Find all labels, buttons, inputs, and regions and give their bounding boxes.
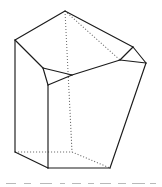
artifact-speck	[100, 183, 111, 184]
artifact-speck	[132, 183, 145, 184]
artifact-speck	[72, 183, 81, 184]
polyhedron-diagram: Polyhedron line drawing Wireframe perspe…	[0, 0, 162, 187]
artifact-speck	[118, 183, 126, 184]
face-front-right	[48, 60, 146, 168]
artifact-speck	[24, 183, 31, 184]
faces-layer	[15, 11, 146, 168]
artifact-speck	[40, 183, 52, 184]
artifact-speck	[60, 183, 65, 184]
artifact-speck	[6, 183, 16, 184]
figure-canvas: Polyhedron line drawing Wireframe perspe…	[0, 0, 162, 187]
artifact-speck	[150, 183, 156, 184]
bottom-artifact-specks	[6, 183, 156, 184]
artifact-speck	[88, 183, 94, 184]
